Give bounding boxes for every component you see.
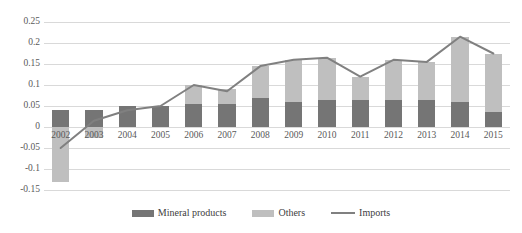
y-axis: 0.250.20.150.10.050-0.05-0.1-0.15 (0, 0, 40, 233)
y-axis-tick-label: 0 (2, 122, 40, 132)
legend-item[interactable]: Imports (331, 208, 390, 218)
legend-label: Imports (359, 208, 390, 218)
chart-legend: Mineral productsOthersImports (0, 208, 522, 218)
line-series-imports (44, 22, 510, 190)
legend-swatch-icon (132, 210, 154, 217)
chart-container: 0.250.20.150.10.050-0.05-0.1-0.15 200220… (0, 0, 522, 233)
legend-label: Mineral products (158, 208, 227, 218)
legend-swatch-icon (252, 210, 274, 217)
y-axis-tick-label: 0.2 (2, 38, 40, 48)
legend-label: Others (278, 208, 305, 218)
legend-line-icon (331, 212, 355, 215)
y-axis-tick-label: 0.25 (2, 17, 40, 27)
imports-line-path (61, 37, 494, 148)
y-axis-tick-label: -0.1 (2, 164, 40, 174)
plot-area (44, 22, 510, 190)
y-axis-tick-label: 0.05 (2, 101, 40, 111)
y-axis-tick-label: -0.05 (2, 143, 40, 153)
y-axis-tick-label: 0.15 (2, 59, 40, 69)
y-axis-tick-label: 0.1 (2, 80, 40, 90)
legend-item[interactable]: Others (252, 208, 305, 218)
legend-item[interactable]: Mineral products (132, 208, 227, 218)
gridline (44, 190, 510, 191)
y-axis-tick-label: -0.15 (2, 185, 40, 195)
